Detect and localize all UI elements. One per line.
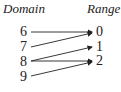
arrow-8-1 [31,47,92,61]
mapping-diagram: Domain Range 6 7 8 9 0 1 2 [0,0,121,92]
mapping-arrows [0,0,121,92]
arrow-7-0 [31,33,92,47]
arrow-9-2 [31,62,92,76]
